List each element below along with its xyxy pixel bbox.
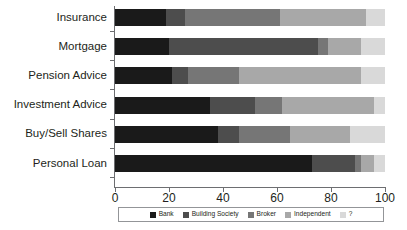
- bar-segment: [239, 67, 361, 84]
- bar-segment: [115, 126, 218, 143]
- stacked-bar: [115, 67, 385, 84]
- stacked-bar: [115, 155, 385, 172]
- category-label: Insurance: [56, 12, 107, 24]
- bar-segment: [361, 38, 385, 55]
- x-axis-tick-label: 60: [270, 192, 283, 204]
- stacked-bar: [115, 38, 385, 55]
- legend-swatch-icon: [183, 212, 189, 218]
- bar-row: Buy/Sell Shares: [115, 126, 385, 143]
- bar-segment: [218, 126, 240, 143]
- bar-segment: [350, 126, 385, 143]
- bar-segment: [374, 97, 385, 114]
- legend-swatch-icon: [340, 212, 346, 218]
- bar-segment: [185, 9, 280, 26]
- bar-segment: [328, 38, 360, 55]
- bar-segment: [169, 38, 318, 55]
- legend-swatch-icon: [285, 212, 291, 218]
- bar-segment: [282, 97, 374, 114]
- legend-swatch-icon: [150, 212, 156, 218]
- bar-segment: [280, 9, 366, 26]
- legend-item[interactable]: Bank: [150, 211, 174, 218]
- bar-segment: [115, 67, 172, 84]
- legend-label: Building Society: [192, 211, 239, 218]
- y-axis-tick: [110, 119, 115, 120]
- chart-legend: BankBuilding SocietyBrokerIndependent?: [118, 207, 384, 222]
- bar-segment: [210, 97, 256, 114]
- bar-segment: [361, 67, 385, 84]
- legend-label: ?: [349, 211, 353, 218]
- bar-segment: [115, 38, 169, 55]
- bar-segment: [318, 38, 329, 55]
- stacked-bar-chart: InsuranceMortgagePension AdviceInvestmen…: [0, 0, 407, 230]
- x-axis-tick-label: 0: [112, 192, 119, 204]
- category-label: Buy/Sell Shares: [25, 129, 107, 141]
- bar-segment: [374, 155, 385, 172]
- legend-label: Broker: [257, 211, 276, 218]
- plot-area: InsuranceMortgagePension AdviceInvestmen…: [115, 6, 385, 188]
- bar-segment: [115, 9, 166, 26]
- bar-segment: [172, 67, 188, 84]
- x-axis-tick-label: 80: [324, 192, 337, 204]
- legend-swatch-icon: [248, 212, 254, 218]
- category-label: Mortgage: [58, 41, 107, 53]
- category-label: Personal Loan: [33, 158, 107, 170]
- bar-segment: [188, 67, 239, 84]
- legend-item[interactable]: Broker: [248, 211, 276, 218]
- legend-item[interactable]: Independent: [285, 211, 331, 218]
- legend-item[interactable]: Building Society: [183, 211, 239, 218]
- bar-segment: [290, 126, 349, 143]
- bar-segment: [366, 9, 385, 26]
- stacked-bar: [115, 9, 385, 26]
- legend-item[interactable]: ?: [340, 211, 353, 218]
- bar-segment: [255, 97, 282, 114]
- bar-row: Mortgage: [115, 38, 385, 55]
- x-axis-tick-label: 40: [216, 192, 229, 204]
- bar-segment: [361, 155, 375, 172]
- stacked-bar: [115, 97, 385, 114]
- bar-segment: [115, 97, 210, 114]
- stacked-bar: [115, 126, 385, 143]
- x-axis-tick-label: 100: [375, 192, 395, 204]
- y-axis-tick: [110, 60, 115, 61]
- y-axis-tick: [110, 177, 115, 178]
- bar-segment: [166, 9, 185, 26]
- bar-segment: [239, 126, 290, 143]
- y-axis-tick: [110, 148, 115, 149]
- bar-row: Personal Loan: [115, 155, 385, 172]
- bar-segment: [115, 155, 312, 172]
- bar-row: Investment Advice: [115, 97, 385, 114]
- x-axis-tick-label: 20: [162, 192, 175, 204]
- category-label: Pension Advice: [28, 70, 107, 82]
- bar-row: Pension Advice: [115, 67, 385, 84]
- y-axis-tick: [110, 89, 115, 90]
- legend-label: Independent: [294, 211, 331, 218]
- bar-row: Insurance: [115, 9, 385, 26]
- bar-segment: [312, 155, 355, 172]
- category-label: Investment Advice: [14, 99, 107, 111]
- y-axis-tick: [110, 31, 115, 32]
- legend-label: Bank: [159, 211, 174, 218]
